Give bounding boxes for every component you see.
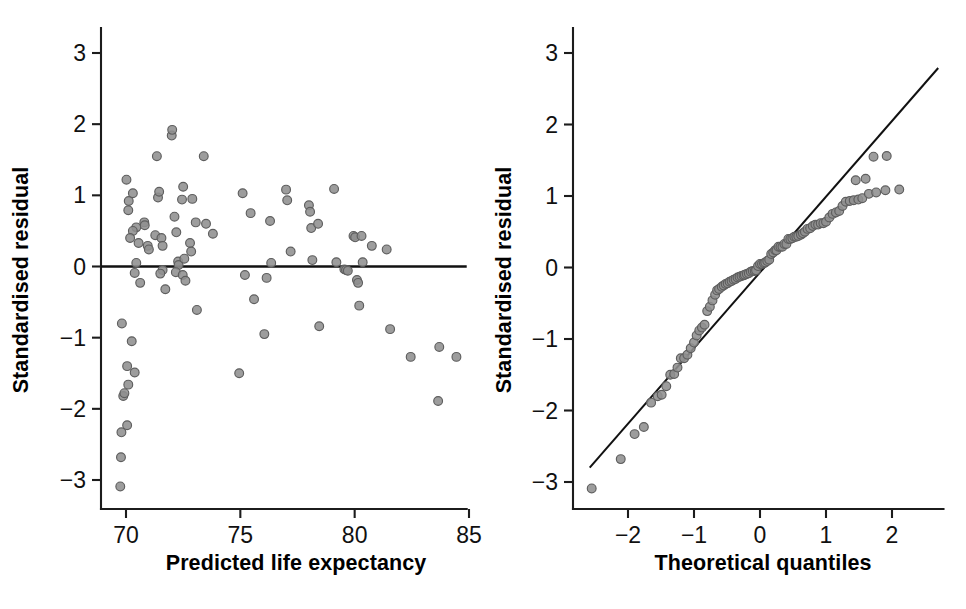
data-point — [306, 207, 315, 216]
data-point — [140, 221, 149, 230]
scatter-panel-qq-normal: 3210−1−2−3−2−1012 Theoretical quantiles … — [483, 0, 966, 609]
axes-group: 3210−1−2−3−2−1012 — [532, 28, 944, 548]
y-axis-tick-label: −3 — [532, 469, 558, 495]
data-point — [124, 206, 133, 215]
data-point — [367, 241, 376, 250]
data-point — [172, 228, 181, 237]
data-point — [861, 174, 870, 183]
data-point — [881, 186, 890, 195]
data-point — [435, 343, 444, 352]
x-axis-tick-label: 80 — [342, 522, 368, 548]
data-point — [152, 152, 161, 161]
data-point — [122, 175, 131, 184]
data-point — [208, 229, 217, 238]
data-point — [616, 455, 625, 464]
data-point — [315, 322, 324, 331]
x-axis-tick-label: −2 — [615, 522, 641, 548]
y-axis-tick-label: 1 — [545, 183, 558, 209]
data-point — [170, 212, 179, 221]
data-point — [199, 152, 208, 161]
y-axis-tick-label: 3 — [545, 40, 558, 66]
figure-canvas: 3210−1−2−370758085 Predicted life expect… — [0, 0, 966, 609]
data-point — [657, 390, 666, 399]
data-point — [116, 482, 125, 491]
x-axis-tick-label: 70 — [113, 522, 139, 548]
data-point — [330, 185, 339, 194]
data-point — [179, 182, 188, 191]
x-axis-tick-label: 75 — [228, 522, 254, 548]
y-axis-tick-label: −2 — [60, 396, 86, 422]
y-axis-tick-label: 2 — [545, 112, 558, 138]
left-plot-svg: 3210−1−2−370758085 — [0, 0, 483, 609]
data-point — [673, 363, 682, 372]
data-point — [386, 325, 395, 334]
data-points-group — [116, 125, 461, 490]
data-point — [186, 239, 195, 248]
right-plot-svg: 3210−1−2−3−2−1012 — [483, 0, 966, 609]
data-point — [127, 337, 136, 346]
data-point — [262, 273, 271, 282]
x-axis-tick-label: −1 — [681, 522, 707, 548]
data-point — [130, 269, 139, 278]
y-axis-tick-label: −3 — [60, 467, 86, 493]
data-point — [332, 258, 341, 267]
data-point — [630, 430, 639, 439]
data-point — [156, 269, 165, 278]
data-point — [178, 195, 187, 204]
data-point — [343, 266, 352, 275]
data-point — [354, 278, 363, 287]
data-point — [120, 389, 129, 398]
data-point — [134, 239, 143, 248]
data-point — [434, 397, 443, 406]
data-points-group — [587, 152, 903, 493]
data-point — [406, 352, 415, 361]
data-point — [662, 382, 671, 391]
data-point — [117, 319, 126, 328]
data-point — [155, 187, 164, 196]
data-point — [587, 484, 596, 493]
data-point — [452, 352, 461, 361]
data-point — [168, 125, 177, 134]
data-point — [128, 189, 137, 198]
y-axis-tick-label: 3 — [73, 40, 86, 66]
data-point — [246, 209, 255, 218]
data-point — [126, 234, 135, 243]
data-point — [158, 241, 167, 250]
data-point — [123, 362, 132, 371]
data-point — [180, 254, 189, 263]
data-point — [191, 218, 200, 227]
y-axis-tick-label: 1 — [73, 182, 86, 208]
data-point — [851, 176, 860, 185]
data-point — [250, 295, 259, 304]
x-axis-tick-label: 1 — [820, 522, 833, 548]
data-point — [882, 152, 891, 161]
y-axis-tick-label: 0 — [73, 254, 86, 280]
data-point — [187, 247, 196, 256]
y-axis-tick-label: 0 — [545, 255, 558, 281]
data-point — [282, 185, 291, 194]
data-point — [639, 423, 648, 432]
y-axis-tick-label: −2 — [532, 398, 558, 424]
x-axis-tick-label: 0 — [754, 522, 767, 548]
data-point — [260, 330, 269, 339]
data-point — [286, 247, 295, 256]
data-point — [355, 301, 364, 310]
data-point — [314, 219, 323, 228]
data-point — [117, 453, 126, 462]
data-point — [130, 368, 139, 377]
y-axis-tick-label: −1 — [532, 326, 558, 352]
data-point — [123, 421, 132, 430]
data-point — [357, 232, 366, 241]
data-point — [308, 256, 317, 265]
data-point — [161, 285, 170, 294]
data-point — [132, 259, 141, 268]
data-point — [895, 185, 904, 194]
data-point — [136, 278, 145, 287]
data-point — [700, 320, 709, 329]
data-point — [283, 196, 292, 205]
data-point — [188, 194, 197, 203]
data-point — [124, 380, 133, 389]
data-point — [202, 219, 211, 228]
axes-group: 3210−1−2−370758085 — [60, 28, 482, 548]
y-axis-tick-label: 2 — [73, 111, 86, 137]
